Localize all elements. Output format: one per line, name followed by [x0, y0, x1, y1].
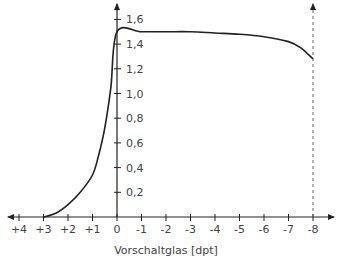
data-curve — [44, 28, 314, 217]
x-tick-label: -2 — [161, 223, 172, 236]
x-tick-label: +1 — [84, 223, 100, 236]
chart: +4+3+2+10-1-2-3-4-5-6-7-8 0,20,40,60,81,… — [0, 0, 340, 264]
x-tick-label: 0 — [114, 223, 121, 236]
x-tick-label: -7 — [283, 223, 294, 236]
x-tick-label: -4 — [210, 223, 221, 236]
x-axis-title: Vorschaltglas [dpt] — [114, 244, 218, 257]
x-tick-label: +2 — [60, 223, 76, 236]
x-tick-label: +3 — [35, 223, 51, 236]
y-tick-label: 1,0 — [126, 88, 144, 101]
x-tick-label: -3 — [185, 223, 196, 236]
y-tick-label: 0,4 — [126, 162, 144, 175]
y-tick-label: 1,2 — [126, 63, 144, 76]
y-axis: 0,20,40,60,81,01,21,41,6 — [114, 4, 144, 217]
x-axis: +4+3+2+10-1-2-3-4-5-6-7-8 — [8, 214, 334, 236]
y-tick-label: 1,4 — [126, 38, 144, 51]
x-tick-label: -8 — [308, 223, 319, 236]
x-tick-label: -1 — [136, 223, 147, 236]
x-tick-label: -6 — [259, 223, 270, 236]
x-tick-label: +4 — [11, 223, 27, 236]
y-tick-label: 0,6 — [126, 137, 144, 150]
x-tick-label: -5 — [234, 223, 245, 236]
y-tick-label: 0,8 — [126, 112, 144, 125]
y-tick-label: 0,2 — [126, 186, 144, 199]
y-tick-label: 1,6 — [126, 13, 144, 26]
